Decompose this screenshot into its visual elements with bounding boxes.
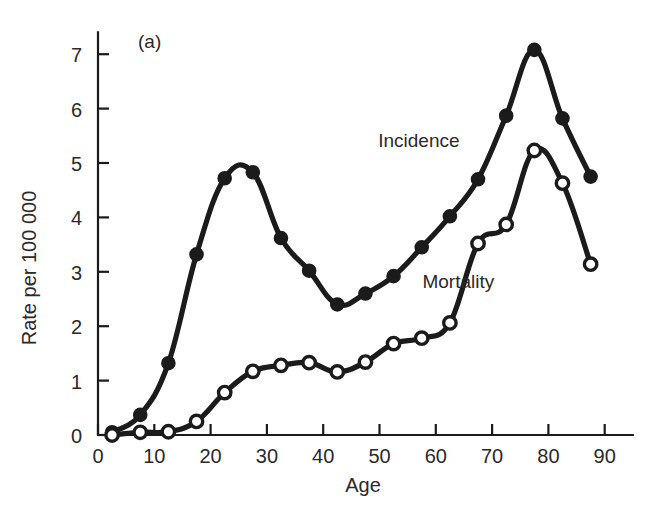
series-mortality xyxy=(106,144,597,441)
data-point xyxy=(162,357,175,370)
data-point xyxy=(500,109,513,122)
data-point xyxy=(416,332,428,344)
series-line-incidence xyxy=(112,50,591,432)
y-axis-title: Rate per 100 000 xyxy=(18,191,40,346)
x-axis-title: Age xyxy=(345,474,381,496)
y-tick-label: 3 xyxy=(71,262,82,284)
data-point xyxy=(303,356,315,368)
data-point xyxy=(443,210,456,223)
data-point xyxy=(106,429,118,441)
x-tick-label: 80 xyxy=(537,445,559,467)
x-tick-label: 50 xyxy=(368,445,390,467)
panel-label: (a) xyxy=(138,31,161,52)
data-point xyxy=(162,426,174,438)
series-label-incidence: Incidence xyxy=(378,130,459,151)
chart-canvas: 012345670102030405060708090 Rate per 100… xyxy=(0,0,664,516)
series-line-mortality xyxy=(112,149,591,435)
y-tick-label: 2 xyxy=(71,316,82,338)
y-tick-label: 1 xyxy=(71,371,82,393)
series-label-mortality: Mortality xyxy=(422,271,494,292)
data-point xyxy=(387,270,400,283)
x-tick-label: 70 xyxy=(481,445,503,467)
figure-panel-a: 012345670102030405060708090 Rate per 100… xyxy=(0,0,664,516)
data-point xyxy=(274,231,287,244)
chart-series xyxy=(105,43,597,441)
data-point xyxy=(275,359,287,371)
chart-ticks xyxy=(98,54,605,435)
x-tick-label: 40 xyxy=(312,445,334,467)
y-tick-label: 5 xyxy=(71,153,82,175)
y-tick-label: 0 xyxy=(71,425,82,447)
data-point xyxy=(556,112,569,125)
data-point xyxy=(528,144,540,156)
x-tick-label: 10 xyxy=(143,445,165,467)
x-tick-label: 0 xyxy=(92,445,103,467)
y-tick-label: 4 xyxy=(71,207,82,229)
series-incidence xyxy=(105,43,597,439)
data-point xyxy=(190,415,202,427)
x-tick-label: 30 xyxy=(256,445,278,467)
data-point xyxy=(528,43,541,56)
data-point xyxy=(218,172,231,185)
x-tick-label: 20 xyxy=(199,445,221,467)
y-tick-label: 7 xyxy=(71,44,82,66)
data-point xyxy=(359,287,372,300)
data-point xyxy=(584,258,596,270)
data-point xyxy=(415,241,428,254)
data-point xyxy=(247,365,259,377)
data-point xyxy=(556,177,568,189)
y-tick-label: 6 xyxy=(71,99,82,121)
data-point xyxy=(134,426,146,438)
data-point xyxy=(246,166,259,179)
chart-tick-labels: 012345670102030405060708090 xyxy=(71,44,616,467)
data-point xyxy=(387,337,399,349)
chart-annotations: Rate per 100 000 Age (a) IncidenceMortal… xyxy=(18,31,495,496)
data-point xyxy=(472,237,484,249)
data-point xyxy=(331,298,344,311)
data-point xyxy=(190,248,203,261)
x-tick-label: 90 xyxy=(594,445,616,467)
data-point xyxy=(359,356,371,368)
data-point xyxy=(331,366,343,378)
x-tick-label: 60 xyxy=(425,445,447,467)
data-point xyxy=(584,170,597,183)
data-point xyxy=(218,386,230,398)
data-point xyxy=(444,317,456,329)
data-point xyxy=(303,264,316,277)
data-point xyxy=(500,218,512,230)
data-point xyxy=(134,408,147,421)
data-point xyxy=(471,173,484,186)
